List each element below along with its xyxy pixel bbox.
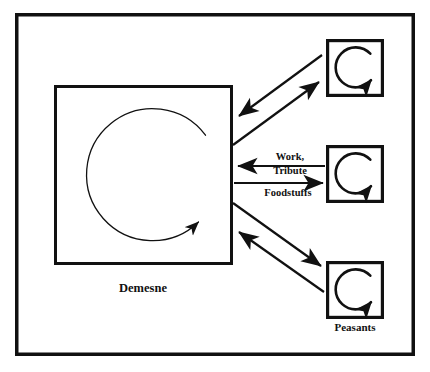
flow-bottom-inbound-arrow: [239, 232, 324, 292]
demesne-label: Demesne: [119, 281, 167, 295]
flow-tribute-label: Tribute: [273, 165, 307, 176]
flow-bottom-outbound-arrow: [233, 203, 321, 266]
flow-top-inbound-arrow: [239, 55, 322, 116]
peasants-label: Peasants: [335, 321, 377, 333]
flow-top-outbound-arrow: [233, 82, 319, 145]
demesne-box: [56, 87, 232, 264]
peasant-bottom-cycle-arrow: [336, 269, 371, 309]
flow-foodstuffs-label: Foodstuffs: [264, 187, 311, 198]
diagram-canvas: Work, Tribute Foodstuffs Demesne Peasant…: [0, 0, 430, 372]
demesne-cycle-arrow: [87, 109, 206, 241]
manorial-flow-diagram: Work, Tribute Foodstuffs Demesne Peasant…: [0, 0, 430, 372]
peasant-top-cycle-arrow: [336, 47, 371, 87]
peasant-middle-cycle-arrow: [336, 153, 371, 193]
manor-frame: [17, 15, 414, 355]
flow-work-label: Work,: [276, 151, 305, 162]
